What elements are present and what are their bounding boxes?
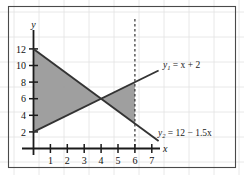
equation-y1-body: = x + 2 <box>170 60 200 70</box>
y-tick-label-12: 12 <box>16 44 26 55</box>
equation-y2-body: = 12 − 1.5x <box>165 128 212 138</box>
y-tick-label-10: 10 <box>16 60 26 71</box>
x-axis-label: x <box>162 143 168 154</box>
x-tick-label-4: 4 <box>99 155 104 166</box>
y-tick-label-6: 6 <box>21 93 26 104</box>
y-tick-label-8: 8 <box>21 77 26 88</box>
x-tick-label-2: 2 <box>65 155 70 166</box>
figure-container: 12 10 8 6 4 2 1 2 3 4 5 6 7 y x y1 = x +… <box>0 0 244 175</box>
y-tick-label-2: 2 <box>21 127 26 138</box>
graph-svg: 12 10 8 6 4 2 1 2 3 4 5 6 7 y x y1 = x +… <box>0 0 244 175</box>
y-tick-label-4: 4 <box>21 110 26 121</box>
x-tick-label-7: 7 <box>149 155 154 166</box>
x-tick-label-3: 3 <box>82 155 87 166</box>
x-tick-label-1: 1 <box>48 155 53 166</box>
x-tick-label-5: 5 <box>116 155 121 166</box>
equation-label-y2: y2 = 12 − 1.5x <box>157 128 212 139</box>
y-axis-label: y <box>30 19 36 30</box>
x-tick-label-6: 6 <box>132 155 137 166</box>
